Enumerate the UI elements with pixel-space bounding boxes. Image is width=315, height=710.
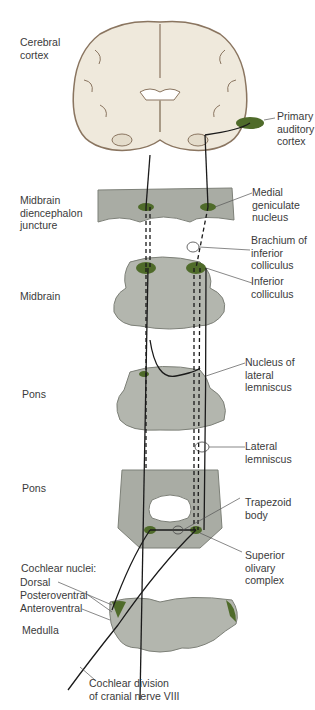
- label-midbrain: Midbrain: [20, 290, 60, 303]
- label-brachium-inferior-colliculus: Brachium of inferior colliculus: [251, 234, 307, 272]
- label-medial-geniculate-nucleus: Medial geniculate nucleus: [252, 186, 300, 224]
- label-lateral-lemniscus: Lateral lemniscus: [245, 440, 292, 465]
- brachium-marker: [187, 242, 199, 252]
- label-inferior-colliculus: Inferior colliculus: [251, 275, 294, 300]
- label-dorsal: Dorsal: [20, 576, 50, 589]
- label-pons-upper: Pons: [22, 388, 46, 401]
- midbrain-diencephalon-section: [98, 188, 234, 222]
- label-trapezoid-body: Trapezoid body: [245, 496, 291, 521]
- label-cerebral-cortex: Cerebral cortex: [20, 36, 60, 61]
- label-pons-lower: Pons: [22, 482, 46, 495]
- label-anteroventral: Anteroventral: [20, 602, 82, 615]
- label-cochlear-division: Cochlear division of cranial nerve VIII: [89, 677, 179, 702]
- label-posteroventral: Posteroventral: [20, 589, 88, 602]
- cerebrum-section: [73, 21, 246, 150]
- lateral-lemniscus-marker: [195, 442, 209, 452]
- pons-lower-section: [118, 470, 222, 548]
- label-superior-olivary-complex: Superior olivary complex: [245, 549, 285, 587]
- label-medulla: Medulla: [22, 624, 59, 637]
- label-nucleus-lateral-lemniscus: Nucleus of lateral lemniscus: [245, 356, 295, 394]
- medulla-section: [110, 597, 238, 652]
- label-midbrain-diencephalon-juncture: Midbrain diencephalon juncture: [20, 194, 82, 232]
- label-primary-auditory-cortex: Primary auditory cortex: [277, 110, 314, 148]
- label-cochlear-nuclei: Cochlear nuclei:: [21, 562, 96, 575]
- midbrain-section: [114, 257, 225, 329]
